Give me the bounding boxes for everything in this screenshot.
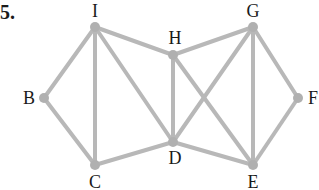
edge-g-f: [253, 27, 298, 98]
node-label-h: H: [169, 29, 182, 47]
node-i: [90, 22, 100, 32]
node-label-e: E: [248, 173, 259, 190]
graph-diagram: 5. IHGBFCDE: [0, 0, 319, 190]
graph-svg: [0, 0, 319, 190]
node-label-f: F: [308, 89, 318, 107]
edge-h-e: [173, 55, 253, 165]
node-g: [248, 22, 258, 32]
edge-i-b: [44, 27, 95, 98]
node-e: [248, 160, 258, 170]
node-d: [168, 137, 178, 147]
edge-f-e: [253, 98, 298, 165]
node-f: [293, 93, 303, 103]
edge-i-d: [95, 27, 173, 142]
node-label-b: B: [23, 89, 35, 107]
node-label-g: G: [247, 2, 260, 20]
node-label-c: C: [89, 173, 101, 190]
node-c: [90, 160, 100, 170]
node-label-i: I: [92, 2, 98, 20]
node-label-d: D: [169, 149, 182, 167]
edge-c-d: [95, 142, 173, 165]
edge-d-g: [173, 27, 253, 142]
edge-b-c: [44, 98, 95, 165]
node-b: [39, 93, 49, 103]
node-h: [168, 50, 178, 60]
